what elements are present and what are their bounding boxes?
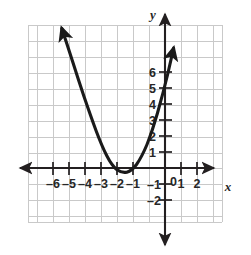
x-tick-label-neg3: –3 (94, 177, 108, 191)
y-tick-label-6: 6 (149, 66, 156, 80)
x-tick-label-neg4: –4 (78, 177, 92, 191)
x-axis-tick-labels: –6 –5 –4 –3 –2 –1 1 2 (46, 177, 200, 191)
origin-label: 0 (170, 175, 177, 189)
y-tick-label-neg2: –2 (147, 194, 161, 208)
x-tick-label-neg1: –1 (126, 177, 140, 191)
x-tick-label-2: 2 (194, 177, 201, 191)
x-tick-label-neg6: –6 (46, 177, 60, 191)
parabola-coordinate-graph: –6 –5 –4 –3 –2 –1 1 2 6 5 4 3 2 1 –1 –2 … (0, 0, 251, 255)
y-axis-label: y (148, 7, 156, 22)
graph-canvas: –6 –5 –4 –3 –2 –1 1 2 6 5 4 3 2 1 –1 –2 … (0, 0, 251, 255)
x-tick-label-neg2: –2 (110, 177, 124, 191)
y-tick-label-4: 4 (149, 98, 156, 112)
x-axis-label: x (224, 179, 232, 194)
x-tick-label-neg5: –5 (62, 177, 76, 191)
y-tick-label-5: 5 (149, 82, 156, 96)
y-tick-label-neg1: –1 (147, 178, 161, 192)
y-tick-label-1: 1 (149, 146, 156, 160)
x-tick-label-1: 1 (178, 177, 185, 191)
